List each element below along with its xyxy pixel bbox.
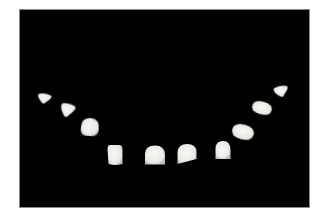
veneer-left-1st-premolar xyxy=(59,102,76,119)
veneer-right-1st-premolar xyxy=(251,99,274,117)
veneer-left-canine xyxy=(80,117,100,137)
veneer-right-2nd-premolar xyxy=(273,85,289,98)
veneer-right-lateral-incisor xyxy=(216,141,231,159)
veneer-left-central-incisor xyxy=(145,146,165,165)
veneer-left-2nd-premolar xyxy=(37,92,52,104)
veneer-arch-photo xyxy=(0,0,328,224)
veneer-right-central-incisor xyxy=(178,144,197,164)
veneer-left-lateral-incisor xyxy=(108,145,123,165)
veneer-right-canine xyxy=(230,122,255,142)
